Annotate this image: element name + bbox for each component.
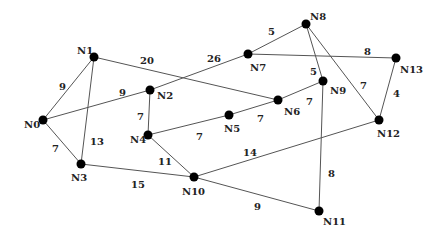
- edge-n0-n2: [43, 90, 150, 120]
- node-n13: [392, 54, 401, 63]
- node-label: N1: [77, 45, 93, 56]
- node-n11: [315, 207, 324, 216]
- node-label: N6: [284, 106, 300, 117]
- edge-weight-label: 26: [207, 53, 221, 64]
- node-label: N4: [130, 134, 146, 145]
- node-labels-layer: N0N1N2N3N4N5N6N7N8N9N10N11N12N13: [24, 11, 423, 227]
- edge-weight-label: 7: [52, 143, 59, 154]
- edge-n2-n7: [150, 54, 248, 90]
- edge-weight-label: 9: [119, 87, 126, 98]
- edge-weight-label: 7: [137, 111, 144, 122]
- node-label: N11: [323, 216, 346, 227]
- node-n12: [375, 116, 384, 125]
- edge-weight-label: 4: [393, 88, 400, 99]
- node-label: N5: [224, 123, 240, 134]
- edge-n0-n3: [43, 120, 81, 164]
- edge-n2-n4: [148, 90, 150, 135]
- edge-weight-label: 11: [158, 156, 172, 167]
- edge-weight-label: 9: [254, 201, 261, 212]
- edge-n9-n11: [319, 81, 323, 211]
- edge-n5-n6: [229, 100, 278, 115]
- node-n10: [190, 173, 199, 182]
- edge-weight-label: 7: [257, 113, 264, 124]
- node-label: N10: [182, 186, 205, 197]
- node-n7: [244, 50, 253, 59]
- node-label: N12: [377, 128, 400, 139]
- node-label: N2: [157, 90, 173, 101]
- edge-weight-label: 14: [243, 147, 257, 158]
- edge-n10-n12: [194, 120, 379, 177]
- edge-weight-label: 5: [268, 26, 275, 37]
- edge-weight-label: 7: [306, 96, 313, 107]
- node-label: N3: [71, 172, 87, 183]
- edge-weight-label: 7: [360, 80, 367, 91]
- node-label: N8: [310, 11, 326, 22]
- node-n3: [77, 160, 86, 169]
- node-n6: [274, 96, 283, 105]
- node-n2: [146, 86, 155, 95]
- node-n9: [319, 77, 328, 86]
- edge-weight-label: 20: [140, 55, 154, 66]
- node-n5: [225, 111, 234, 120]
- edge-weight-label: 13: [90, 136, 104, 147]
- node-label: N9: [330, 85, 346, 96]
- edge-n4-n5: [148, 115, 229, 135]
- edge-weight-label: 5: [310, 66, 317, 77]
- edge-weight-label: 15: [131, 179, 145, 190]
- graph-diagram: 99713202677111577585748149 N0N1N2N3N4N5N…: [0, 0, 440, 246]
- edge-n7-n8: [248, 24, 306, 54]
- node-label: N13: [400, 64, 423, 75]
- edge-weight-label: 7: [196, 131, 203, 142]
- edge-weight-label: 8: [364, 46, 371, 57]
- edge-weight-label: 9: [59, 81, 66, 92]
- edge-weights-layer: 99713202677111577585748149: [52, 26, 400, 212]
- edge-n1-n3: [81, 57, 94, 164]
- edge-n7-n13: [248, 54, 396, 58]
- edge-n0-n1: [43, 57, 94, 120]
- graph-svg: 99713202677111577585748149 N0N1N2N3N4N5N…: [0, 0, 440, 246]
- edge-n6-n9: [278, 81, 323, 100]
- edge-weight-label: 8: [328, 168, 335, 179]
- node-label: N7: [250, 62, 266, 73]
- node-label: N0: [24, 119, 40, 130]
- edge-n3-n10: [81, 164, 194, 177]
